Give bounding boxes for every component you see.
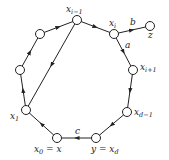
label-x-i-minus-1: xi−1 bbox=[66, 4, 83, 16]
edge-xip1-to-xdm1 bbox=[127, 70, 133, 112]
edge-label-b: b bbox=[130, 17, 136, 27]
edge-upperleft-to-xim1 bbox=[40, 20, 77, 34]
label-x-i-plus-1: xi+1 bbox=[140, 62, 157, 74]
edge-left-to-upperleft bbox=[20, 34, 40, 70]
label-z: z bbox=[147, 30, 153, 40]
edge-x0-to-x1 bbox=[26, 110, 57, 138]
label-x0-equals-x: x0 = x bbox=[34, 144, 62, 156]
node-y-x-d bbox=[92, 134, 101, 143]
label-x-i: xi bbox=[109, 18, 116, 30]
edge-label-a: a bbox=[125, 40, 130, 50]
label-y-equals-x-d: y = xd bbox=[90, 144, 119, 156]
node-x0-x bbox=[53, 134, 62, 143]
edge-xi-to-z bbox=[114, 26, 150, 34]
node-x-i bbox=[110, 30, 119, 39]
edge-x1-to-left bbox=[20, 70, 26, 110]
labels: xi−1 xi z xi+1 xd−1 y = xd x0 = x x1 a b… bbox=[10, 4, 157, 156]
node-left bbox=[16, 66, 25, 75]
label-x-d-minus-1: xd−1 bbox=[134, 107, 153, 119]
node-x-i-plus-1 bbox=[129, 66, 138, 75]
node-x-i-minus-1 bbox=[73, 16, 82, 25]
nodes bbox=[16, 16, 155, 143]
edge-xdm1-to-y bbox=[96, 112, 127, 138]
cycle-graph-diagram: xi−1 xi z xi+1 xd−1 y = xd x0 = x x1 a b… bbox=[0, 0, 169, 160]
node-upper-left bbox=[36, 30, 45, 39]
node-x1 bbox=[22, 106, 31, 115]
node-x-d-minus-1 bbox=[123, 108, 132, 117]
edge-xim1-to-x1-chord bbox=[26, 20, 77, 110]
edge-label-c: c bbox=[75, 126, 80, 136]
label-x1: x1 bbox=[10, 111, 19, 123]
